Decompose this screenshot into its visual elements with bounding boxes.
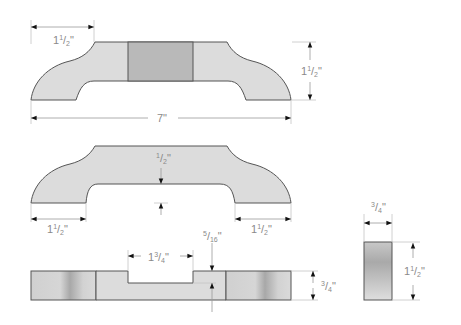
end-view-block	[364, 242, 392, 300]
top-view: 11/2" 7" 11/2"	[31, 20, 322, 124]
drawer-pull-diagram: 11/2" 7" 11/2" 1/2" 11/2" 11/2"	[0, 0, 461, 325]
top-view-center-block	[128, 42, 193, 81]
side-view: 13/4" 5/16" 3/4"	[31, 230, 336, 312]
dim-left-foot-label: 11/2"	[47, 223, 68, 236]
side-center-rail	[96, 271, 226, 300]
side-left-end	[31, 271, 96, 300]
dim-end-height-label: 11/2"	[404, 265, 425, 278]
dim-overall-length-label: 7"	[157, 112, 167, 124]
dim-right-foot-label: 11/2"	[251, 223, 272, 236]
dim-thickness-label: 3/4"	[321, 280, 336, 293]
end-view: 3/4" 11/2"	[364, 201, 425, 300]
dim-notch-depth-label: 5/16"	[203, 230, 222, 243]
dim-end-width-label: 11/2"	[53, 34, 74, 47]
dim-end-width-label-2: 3/4"	[371, 201, 386, 214]
side-right-end	[226, 271, 291, 300]
dim-notch-width-label: 13/4"	[148, 251, 169, 264]
front-view: 1/2" 11/2" 11/2"	[31, 146, 291, 236]
dim-height-label: 11/2"	[301, 65, 322, 78]
